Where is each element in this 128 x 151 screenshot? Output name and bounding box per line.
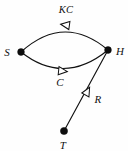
edge-kc-arrowhead: [60, 20, 70, 29]
edge-label-kc: KC: [59, 5, 73, 16]
node-h-dot: [105, 47, 112, 54]
node-label-h: H: [116, 46, 124, 57]
edge-label-c: C: [56, 77, 64, 88]
node-label-s: S: [4, 47, 10, 58]
edge-label-r: R: [95, 94, 102, 105]
edge-kc-path: [21, 32, 108, 52]
node-label-t: T: [60, 140, 66, 151]
edge-c-path: [21, 50, 108, 69]
node-t-dot: [60, 127, 67, 134]
diagram-canvas: S H T KC C R: [0, 0, 128, 151]
node-s-dot: [18, 49, 25, 56]
